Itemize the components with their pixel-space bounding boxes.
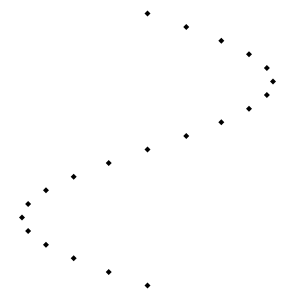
scatter-plot <box>0 0 289 302</box>
plot-background <box>0 0 289 302</box>
